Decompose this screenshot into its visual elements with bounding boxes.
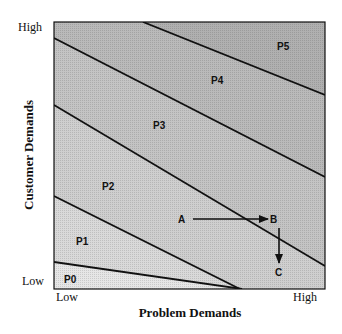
x-axis-title: Problem Demands <box>139 305 242 320</box>
label-p5: P5 <box>277 41 290 52</box>
x-axis-high: High <box>293 290 317 304</box>
diagram-canvas: P0 P1 P2 P3 P4 P5 A B C High Low Low Hig… <box>0 0 342 334</box>
y-axis-high: High <box>18 20 42 34</box>
point-b-label: B <box>270 214 277 225</box>
region-fills <box>54 22 325 289</box>
x-axis-low: Low <box>56 290 78 304</box>
label-p4: P4 <box>211 75 224 86</box>
label-p2: P2 <box>102 181 115 192</box>
point-a-label: A <box>178 214 185 225</box>
label-p1: P1 <box>76 236 89 247</box>
label-p3: P3 <box>153 120 166 131</box>
label-p0: P0 <box>64 274 77 285</box>
point-c-label: C <box>275 267 282 278</box>
y-axis-title: Customer Demands <box>21 100 36 210</box>
y-axis-low: Low <box>22 274 44 288</box>
